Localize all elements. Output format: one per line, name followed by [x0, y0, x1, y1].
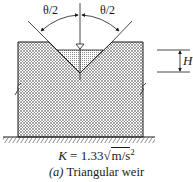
formula-symbol: K — [58, 148, 67, 163]
caption-prefix: (a) — [49, 165, 64, 179]
extension-line-left — [28, 21, 49, 42]
discharge-coefficient-formula: K = 1.33√m/s2 — [0, 147, 193, 164]
head-label: H — [183, 53, 192, 69]
figure-caption: (a) Triangular weir — [0, 165, 193, 180]
formula-exponent: 2 — [130, 147, 135, 157]
formula-radical: m/s — [111, 147, 131, 163]
caption-text: Triangular weir — [64, 165, 145, 179]
extension-line-right — [112, 21, 132, 42]
ground-hatch — [3, 137, 155, 143]
theta-half-right-label: θ/2 — [100, 3, 115, 18]
water-level-symbol — [76, 44, 84, 49]
formula-value: = 1.33 — [67, 148, 104, 163]
sqrt-icon: √ — [103, 148, 110, 163]
theta-half-left-label: θ/2 — [43, 3, 58, 18]
